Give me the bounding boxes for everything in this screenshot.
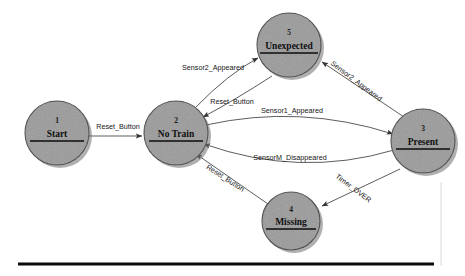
state-node-unexpected[interactable]: 5 Unexpected: [257, 13, 324, 80]
state-number: 5: [287, 28, 291, 37]
decorations-layer: [18, 182, 441, 266]
state-number: 2: [174, 116, 178, 125]
state-name: No Train: [158, 129, 195, 139]
edge-label-sensorm-disappeared: SensorM_Disappeared: [253, 153, 327, 162]
states-layer: 1 Start 2 No Train 5 Unexpected: [25, 13, 458, 253]
edge-label-sensor2-appeared-left: Sensor2_Appeared: [182, 63, 244, 72]
edge-path: [206, 116, 393, 134]
state-number: 4: [289, 205, 293, 214]
diagram-canvas: 1 Start 2 No Train 5 Unexpected: [0, 0, 465, 276]
edge-label-reset-button-missing: Reset_Button: [205, 162, 246, 193]
edge-label-timer-over: Timer_OVER: [334, 172, 373, 205]
state-name: Start: [47, 129, 68, 139]
state-number: 1: [55, 116, 59, 125]
state-machine-diagram: 1 Start 2 No Train 5 Unexpected: [0, 0, 465, 276]
transition-notrain-to-present: [206, 116, 393, 134]
edge-labels-layer: Reset_Button Sensor2_Appeared Reset_Butt…: [96, 59, 384, 205]
edge-label-sensor1-appeared: Sensor1_Appeared: [261, 106, 323, 115]
state-node-start[interactable]: 1 Start: [25, 101, 92, 168]
state-name: Present: [408, 137, 439, 147]
edge-label-sensor2-appeared-right: Sensor2_Appeared: [329, 59, 384, 103]
state-node-missing[interactable]: 4 Missing: [262, 192, 323, 253]
state-name: Unexpected: [265, 41, 313, 51]
state-node-present[interactable]: 3 Present: [391, 109, 458, 176]
edge-label-reset-button-start: Reset_Button: [96, 122, 140, 131]
edge-label-reset-button-unexpected: Reset_Button: [210, 97, 254, 106]
state-node-no-train[interactable]: 2 No Train: [144, 101, 211, 168]
state-number: 3: [421, 124, 425, 133]
state-name: Missing: [275, 217, 307, 227]
